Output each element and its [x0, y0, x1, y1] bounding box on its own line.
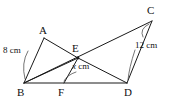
- vertex-label-D: D: [124, 87, 132, 98]
- measurement-unit-ef: cm: [76, 61, 89, 71]
- vertex-label-C: C: [147, 5, 154, 16]
- vertex-label-E: E: [72, 43, 79, 54]
- vertex-label-A: A: [39, 25, 47, 36]
- edge-A-B: [24, 38, 44, 83]
- measurement-label-ef: x cm: [72, 62, 89, 71]
- edge-C-D: [127, 21, 152, 83]
- vertex-label-B: B: [17, 87, 24, 98]
- vertex-dots-group: [77, 57, 80, 60]
- vertex-label-F: F: [58, 87, 64, 98]
- vertex-dot-E: [77, 57, 80, 60]
- figure-canvas: [0, 0, 178, 111]
- measurement-label-cd: 12 cm: [135, 41, 157, 50]
- measurement-label-ab: 8 cm: [3, 46, 21, 55]
- geometry-figure: A B C D E F 8 cm x cm 12 cm: [0, 0, 178, 111]
